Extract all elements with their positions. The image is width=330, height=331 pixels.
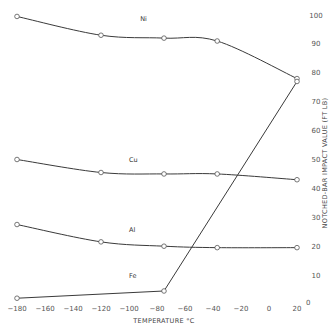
y-tick-label: 10 — [312, 272, 321, 280]
series-label-al: Al — [129, 226, 135, 234]
series-line-cu — [17, 160, 297, 180]
data-point-cu — [215, 172, 220, 177]
data-point-ni — [215, 39, 220, 44]
y-tick-label: 30 — [312, 214, 321, 222]
x-tick-label: −20 — [234, 305, 249, 313]
x-tick-label: −60 — [178, 305, 193, 313]
y-tick-label: 50 — [312, 156, 321, 164]
impact-temperature-chart: −180−160−140−120−100−80−60−40−2002001020… — [0, 0, 330, 331]
series-label-cu: Cu — [129, 156, 138, 164]
data-point-cu — [162, 172, 167, 177]
series-line-fe — [17, 81, 297, 298]
data-point-fe — [15, 296, 20, 301]
y-tick-label: 90 — [312, 40, 321, 48]
data-point-fe — [295, 79, 300, 84]
y-tick-label: 40 — [312, 185, 321, 193]
data-point-cu — [15, 157, 20, 162]
x-tick-label: −100 — [119, 305, 138, 313]
data-point-cu — [99, 170, 104, 175]
data-point-al — [99, 240, 104, 245]
x-tick-label: −80 — [150, 305, 165, 313]
x-axis-title: TEMPERATURE °C — [132, 317, 194, 325]
data-point-al — [15, 222, 20, 227]
series-label-fe: Fe — [129, 272, 136, 280]
x-tick-label: −140 — [63, 305, 82, 313]
x-tick-label: 20 — [293, 305, 302, 313]
x-tick-label: −40 — [206, 305, 221, 313]
x-tick-label: −120 — [91, 305, 110, 313]
data-point-fe — [162, 289, 167, 294]
x-tick-label: −160 — [35, 305, 54, 313]
y-tick-label: 100 — [309, 12, 322, 20]
x-tick-label: −180 — [7, 305, 26, 313]
data-point-ni — [15, 14, 20, 19]
y-tick-label: 60 — [312, 127, 321, 135]
series-line-al — [17, 225, 297, 248]
x-tick-label: 0 — [267, 305, 271, 313]
data-point-al — [215, 245, 220, 250]
data-point-ni — [99, 33, 104, 38]
y-tick-label: 0 — [306, 299, 310, 307]
y-axis-title: NOTCHED-BAR IMPACT VALUE (FT LB) — [321, 98, 329, 229]
data-point-al — [295, 245, 300, 250]
data-point-al — [162, 244, 167, 249]
plot-area: −180−160−140−120−100−80−60−40−2002001020… — [0, 0, 330, 331]
data-point-ni — [162, 36, 167, 41]
data-point-cu — [295, 177, 300, 182]
series-line-ni — [17, 16, 297, 78]
series-label-ni: Ni — [140, 15, 147, 23]
y-tick-label: 20 — [312, 243, 321, 251]
y-tick-label: 70 — [312, 98, 321, 106]
y-tick-label: 80 — [312, 69, 321, 77]
